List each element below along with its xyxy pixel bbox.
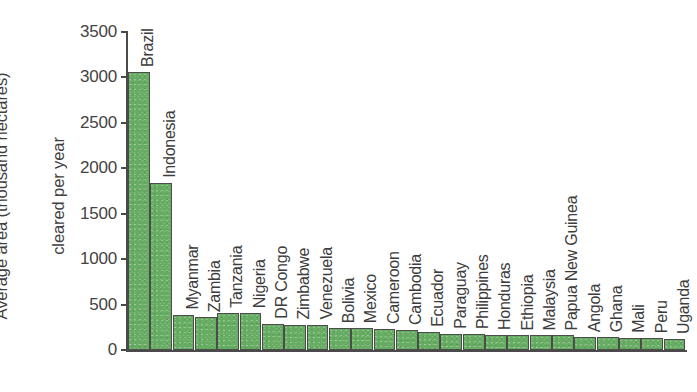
bar-rect: [574, 337, 596, 350]
bars-group: BrazilIndonesiaMyanmarZambiaTanzaniaNige…: [128, 32, 686, 350]
bar-rect: [619, 338, 641, 350]
bar-paraguay[interactable]: Paraguay: [440, 32, 462, 350]
bar-malaysia[interactable]: Malaysia: [530, 32, 552, 350]
bar-rect: [374, 329, 396, 350]
bar-zimbabwe[interactable]: Zimbabwe: [284, 32, 306, 350]
bar-rect: [240, 313, 262, 350]
bar-rect: [195, 317, 217, 350]
bar-ghana[interactable]: Ghana: [597, 32, 619, 350]
bar-zambia[interactable]: Zambia: [195, 32, 217, 350]
bar-brazil[interactable]: Brazil: [128, 32, 150, 350]
bar-rect: [552, 335, 574, 350]
y-tick-mark: [121, 76, 128, 78]
bar-rect: [329, 328, 351, 350]
y-axis-title: Average area (thousand hectares) cleared…: [0, 0, 60, 392]
y-axis-title-line2: cleared per year: [49, 73, 68, 320]
x-axis-line: [126, 350, 687, 352]
bar-rect: [307, 325, 329, 350]
bar-honduras[interactable]: Honduras: [485, 32, 507, 350]
y-tick-label: 2000: [80, 157, 117, 178]
y-tick-label: 1500: [80, 203, 117, 224]
y-tick-mark: [121, 258, 128, 260]
bar-cameroon[interactable]: Cameroon: [374, 32, 396, 350]
bar-rect: [217, 313, 239, 350]
y-tick-label: 2500: [80, 112, 117, 133]
bar-rect: [284, 325, 306, 350]
bar-rect: [463, 334, 485, 350]
bar-angola[interactable]: Angola: [574, 32, 596, 350]
bar-rect: [173, 315, 195, 350]
y-tick-mark: [121, 349, 128, 351]
plot-area: 0500100015002000250030003500 BrazilIndon…: [128, 32, 686, 350]
y-tick-label: 3000: [80, 66, 117, 87]
bar-cambodia[interactable]: Cambodia: [396, 32, 418, 350]
y-tick-mark: [121, 213, 128, 215]
bar-nigeria[interactable]: Nigeria: [240, 32, 262, 350]
bar-uganda[interactable]: Uganda: [664, 32, 686, 350]
bar-rect: [597, 337, 619, 350]
bar-venezuela[interactable]: Venezuela: [307, 32, 329, 350]
bar-peru[interactable]: Peru: [641, 32, 663, 350]
bar-rect: [507, 335, 529, 350]
bar-rect: [664, 339, 686, 350]
bar-papua-new-guinea[interactable]: Papua New Guinea: [552, 32, 574, 350]
bar-myanmar[interactable]: Myanmar: [173, 32, 195, 350]
bar-label: Uganda: [676, 280, 692, 335]
bar-rect: [351, 328, 373, 350]
bar-rect: [641, 338, 663, 350]
bar-rect: [396, 330, 418, 350]
bar-dr-congo[interactable]: DR Congo: [262, 32, 284, 350]
y-axis-title-line1: Average area (thousand hectares): [0, 73, 11, 320]
y-tick-mark: [121, 304, 128, 306]
y-tick-mark: [121, 167, 128, 169]
deforestation-bar-chart: Average area (thousand hectares) cleared…: [0, 0, 697, 392]
bar-indonesia[interactable]: Indonesia: [150, 32, 172, 350]
y-tick-label: 1000: [80, 248, 117, 269]
bar-rect: [150, 183, 172, 350]
bar-mexico[interactable]: Mexico: [351, 32, 373, 350]
bar-bolivia[interactable]: Bolivia: [329, 32, 351, 350]
bar-rect: [262, 324, 284, 350]
bar-mali[interactable]: Mali: [619, 32, 641, 350]
bar-ethiopia[interactable]: Ethiopia: [507, 32, 529, 350]
y-tick-label: 3500: [80, 21, 117, 42]
y-tick-mark: [121, 31, 128, 33]
bar-rect: [440, 334, 462, 350]
bar-rect: [485, 335, 507, 350]
y-tick-label: 0: [108, 339, 117, 360]
bar-rect: [128, 72, 150, 350]
bar-tanzania[interactable]: Tanzania: [217, 32, 239, 350]
bar-rect: [418, 332, 440, 350]
bar-rect: [530, 335, 552, 350]
bar-ecuador[interactable]: Ecuador: [418, 32, 440, 350]
y-tick-mark: [121, 122, 128, 124]
bar-philippines[interactable]: Philippines: [463, 32, 485, 350]
y-tick-label: 500: [89, 294, 117, 315]
